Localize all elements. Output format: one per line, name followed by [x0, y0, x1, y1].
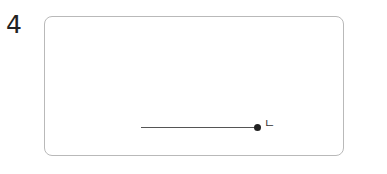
endpoint-dot: [254, 124, 261, 131]
line-segment: [141, 127, 257, 128]
question-number: 4: [6, 12, 22, 37]
figure-box: [44, 16, 344, 156]
endpoint-label: ㄴ: [264, 118, 275, 130]
